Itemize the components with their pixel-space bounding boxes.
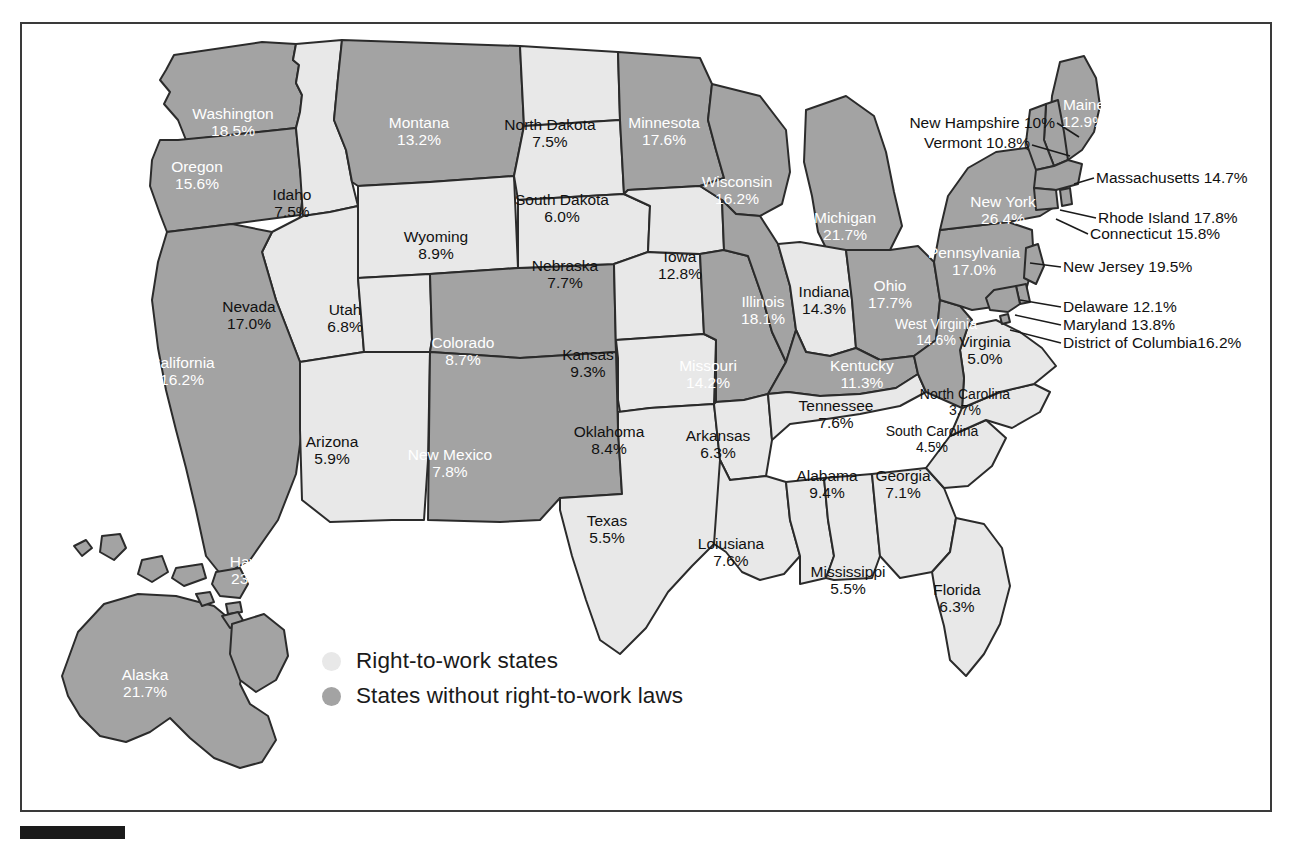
- state-value: 3.7%: [920, 403, 1010, 419]
- state-value: 6.8%: [327, 318, 362, 335]
- state-value: 21.7%: [814, 226, 876, 243]
- state-label-washington: Washington18.5%: [192, 105, 273, 140]
- state-label-colorado: Colorado8.7%: [432, 334, 495, 369]
- state-value: 7.6%: [698, 552, 764, 569]
- state-value: 12.9%: [1062, 113, 1106, 130]
- state-value: 23.7%: [230, 570, 277, 587]
- state-name: Michigan: [814, 209, 876, 226]
- state-name: North Dakota: [504, 116, 595, 133]
- state-value: 13.2%: [389, 131, 449, 148]
- legend-label: Right-to-work states: [356, 648, 558, 674]
- state-label-oregon: Oregon15.6%: [171, 158, 223, 193]
- legend-swatch-icon: [322, 652, 341, 671]
- callout-label-new-hampshire: New Hampshire 10%: [909, 114, 1055, 132]
- state-name: New Mexico: [408, 446, 492, 463]
- state-name: Idaho: [273, 186, 312, 203]
- callout-label-connecticut: Connecticut 15.8%: [1090, 225, 1220, 243]
- state-value: 16.2%: [149, 371, 214, 388]
- state-name: Alabama: [796, 467, 857, 484]
- state-name: Virginia: [959, 333, 1010, 350]
- state-name: Georgia: [875, 467, 930, 484]
- state-label-mississippi: Mississippi5.5%: [811, 563, 886, 598]
- state-value: 7.7%: [532, 274, 598, 291]
- state-name: Washington: [192, 105, 273, 122]
- state-value: 14.3%: [799, 300, 850, 317]
- state-name: Mississippi: [811, 563, 886, 580]
- state-name: Maine: [1062, 96, 1106, 113]
- state-name: Florida: [933, 581, 980, 598]
- map-legend: Right-to-work statesStates without right…: [322, 648, 683, 718]
- state-label-new-york: New York26.4%: [970, 193, 1035, 228]
- state-name: Colorado: [432, 334, 495, 351]
- state-label-north-dakota: North Dakota7.5%: [504, 116, 595, 151]
- state-name: South Carolina: [886, 424, 979, 440]
- state-value: 15.6%: [171, 175, 223, 192]
- state-label-pennsylvania: Pennsylvania17.0%: [928, 244, 1020, 279]
- state-value: 6.0%: [515, 208, 609, 225]
- state-label-kentucky: Kentucky11.3%: [830, 357, 894, 392]
- state-label-texas: Texas5.5%: [587, 512, 628, 547]
- state-name: Tennessee: [799, 397, 874, 414]
- state-name: Arkansas: [686, 427, 751, 444]
- state-label-iowa: Iowa12.8%: [658, 248, 702, 283]
- state-name: South Dakota: [515, 191, 609, 208]
- state-name: Wyoming: [404, 228, 468, 245]
- state-label-wyoming: Wyoming8.9%: [404, 228, 468, 263]
- state-value: 12.8%: [658, 265, 702, 282]
- state-value: 11.3%: [830, 374, 894, 391]
- state-name: Texas: [587, 512, 628, 529]
- state-value: 8.9%: [404, 245, 468, 262]
- state-label-florida: Florida6.3%: [933, 581, 980, 616]
- state-name: California: [149, 354, 214, 371]
- state-value: 14.6%: [895, 333, 977, 349]
- state-value: 9.4%: [796, 484, 857, 501]
- state-name: Hawaii: [230, 553, 277, 570]
- state-label-arkansas: Arkansas6.3%: [686, 427, 751, 462]
- legend-item-right-to-work: Right-to-work states: [322, 648, 683, 674]
- state-value: 17.7%: [868, 294, 912, 311]
- state-value: 7.6%: [799, 414, 874, 431]
- state-name: Indiana: [799, 283, 850, 300]
- state-value: 5.9%: [306, 450, 359, 467]
- state-value: 7.5%: [504, 133, 595, 150]
- state-value: 7.5%: [273, 203, 312, 220]
- state-value: 16.2%: [702, 190, 773, 207]
- state-label-ohio: Ohio17.7%: [868, 277, 912, 312]
- state-label-oklahoma: Oklahoma8.4%: [574, 423, 645, 458]
- state-name: Arizona: [306, 433, 359, 450]
- state-label-tennessee: Tennessee7.6%: [799, 397, 874, 432]
- state-value: 5.5%: [587, 529, 628, 546]
- state-value: 21.7%: [122, 683, 169, 700]
- state-value: 8.4%: [574, 440, 645, 457]
- state-value: 17.6%: [628, 131, 700, 148]
- state-value: 17.0%: [928, 261, 1020, 278]
- state-name: Nevada: [222, 298, 275, 315]
- state-name: Montana: [389, 114, 449, 131]
- state-label-north-carolina: North Carolina3.7%: [920, 387, 1010, 418]
- state-value: 14.2%: [679, 374, 737, 391]
- state-label-illinois: Illinois18.1%: [741, 293, 785, 328]
- state-value: 18.1%: [741, 310, 785, 327]
- callout-label-massachusetts: Massachusetts 14.7%: [1096, 169, 1248, 187]
- callout-label-district-of-columbia: District of Columbia16.2%: [1063, 334, 1241, 352]
- callout-label-new-jersey: New Jersey 19.5%: [1063, 258, 1192, 276]
- state-value: 18.5%: [192, 122, 273, 139]
- state-labels-layer: Washington18.5%Oregon15.6%Idaho7.5%Monta…: [0, 0, 1295, 854]
- state-value: 9.3%: [562, 363, 614, 380]
- state-name: Loiusiana: [698, 535, 764, 552]
- state-label-maine: Maine12.9%: [1062, 96, 1106, 131]
- state-label-michigan: Michigan21.7%: [814, 209, 876, 244]
- state-label-west-virginia: West Virginia14.6%: [895, 317, 977, 348]
- state-label-georgia: Georgia7.1%: [875, 467, 930, 502]
- state-value: 7.1%: [875, 484, 930, 501]
- state-name: Wisconsin: [702, 173, 773, 190]
- state-label-idaho: Idaho7.5%: [273, 186, 312, 221]
- state-value: 7.8%: [408, 463, 492, 480]
- state-label-missouri: Missouri14.2%: [679, 357, 737, 392]
- state-label-montana: Montana13.2%: [389, 114, 449, 149]
- state-value: 26.4%: [970, 210, 1035, 227]
- state-label-arizona: Arizona5.9%: [306, 433, 359, 468]
- state-value: 8.7%: [432, 351, 495, 368]
- state-name: Oklahoma: [574, 423, 645, 440]
- state-name: Ohio: [868, 277, 912, 294]
